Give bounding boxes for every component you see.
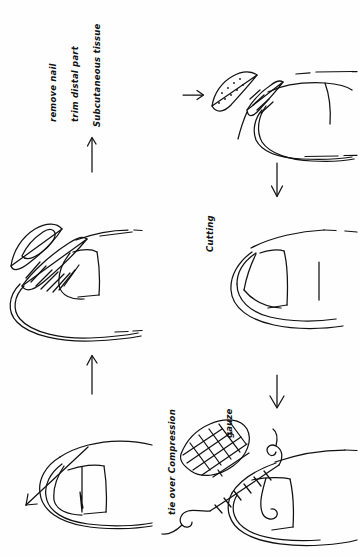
arrow-down-right-upper [272,163,283,197]
final-result-panel [26,441,152,529]
label-cutting: Cutting [205,215,215,252]
arrow-up-left-upper [88,138,97,173]
cutting-panel [231,230,357,329]
label-remove-nail: remove nail [48,63,58,122]
arrow-down-right-lower [270,375,284,408]
tie-over-compression-panel [162,420,357,546]
label-gauze: gauze [224,408,234,438]
arrow-up-left-lower [87,356,97,395]
label-trim-distal-part: trim distal part [70,46,80,122]
label-tie-over-compression: tie over Compression [167,409,177,515]
nail-removal-panel [212,72,357,162]
arrow-right-top [183,91,204,100]
diagram-sheet: remove nail trim distal part Subcutaneou… [0,0,359,556]
label-subcutaneous-tissue: Subcutaneous tissue [92,23,102,127]
flap-elevation-panel [10,224,142,341]
